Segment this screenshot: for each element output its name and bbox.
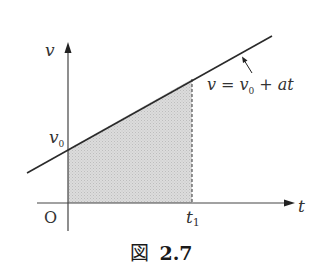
caption-number: 2.7 <box>159 242 192 264</box>
pointer-arrow-icon <box>242 57 248 64</box>
t1-label: t1 <box>186 207 200 229</box>
origin-label: O <box>44 208 57 227</box>
caption-prefix: 図 <box>130 242 149 264</box>
equation-label: v=v0+at <box>207 75 294 96</box>
velocity-time-diagram: v t O v0 t1 v=v0+at <box>0 0 323 275</box>
v-axis-label: v <box>45 40 55 60</box>
shaded-displacement-area <box>68 79 192 203</box>
figure-caption: 図2.7 <box>0 238 323 265</box>
equation-pointer <box>244 60 252 73</box>
t-axis-label: t <box>298 196 305 216</box>
v-axis-arrow-icon <box>65 42 72 53</box>
v0-label: v0 <box>49 127 65 149</box>
t-axis-arrow-icon <box>284 200 295 207</box>
